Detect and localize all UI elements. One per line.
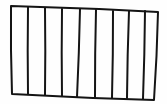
column-dividers (28, 7, 145, 99)
column-divider-line (77, 9, 80, 97)
column-divider-line (95, 10, 96, 97)
column-divider-line (112, 11, 113, 98)
column-divider-line (143, 11, 145, 99)
column-divider-line (127, 11, 129, 98)
column-grid-sketch (0, 0, 167, 104)
outer-rectangle (11, 6, 158, 100)
sketch-canvas (0, 0, 167, 104)
